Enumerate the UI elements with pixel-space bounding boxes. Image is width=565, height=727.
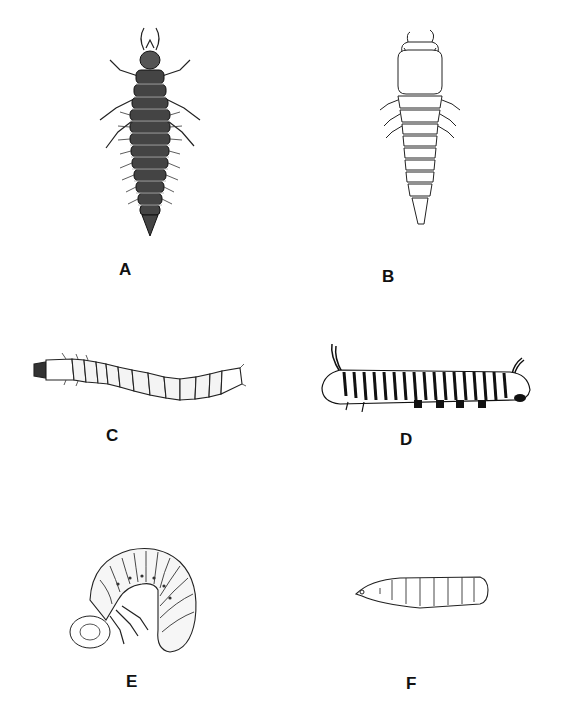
panel-label-c: C (106, 426, 118, 446)
larva-a-illustration (80, 20, 220, 250)
panel-label-f: F (406, 674, 416, 694)
panel-e: E (50, 520, 250, 720)
panel-a: A (80, 20, 220, 280)
larva-b-illustration (360, 20, 480, 250)
panel-label-d: D (400, 430, 412, 450)
panel-label-a: A (119, 260, 131, 280)
panel-c: C (20, 340, 260, 470)
larva-c-illustration (20, 340, 260, 420)
panel-label-e: E (126, 672, 137, 692)
larva-e-illustration (50, 520, 250, 670)
panel-b: B (360, 20, 480, 290)
larva-d-illustration (300, 340, 560, 420)
panel-label-b: B (382, 267, 394, 287)
panel-d: D (300, 340, 560, 470)
panel-f: F (340, 560, 540, 720)
larva-f-illustration (340, 560, 540, 630)
